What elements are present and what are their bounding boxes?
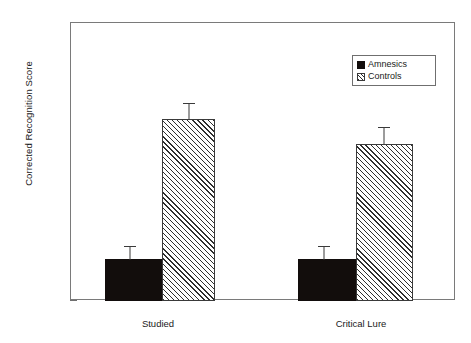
solid-square-icon: [357, 61, 365, 69]
legend: Amnesics Controls: [352, 55, 436, 86]
errorbar-stem: [384, 127, 385, 145]
legend-label-controls: Controls: [368, 72, 402, 81]
x-tick-label-studied: Studied: [118, 318, 198, 329]
errorbar-critical-lure-controls: [378, 127, 390, 145]
bar-studied-controls[interactable]: [162, 119, 215, 301]
y-tick-major-0: [70, 300, 77, 301]
errorbar-stem: [130, 246, 131, 260]
errorbar-studied-amnesics: [124, 246, 136, 260]
errorbar-critical-lure-amnesics: [318, 246, 330, 260]
bar-studied-amnesics[interactable]: [105, 259, 162, 301]
errorbar-stem: [324, 246, 325, 260]
errorbar-studied-controls: [183, 103, 195, 120]
errorbar-stem: [189, 103, 190, 120]
legend-label-amnesics: Amnesics: [368, 60, 407, 69]
legend-item-amnesics[interactable]: Amnesics: [357, 59, 431, 70]
bar-chart-figure: Corrected Recognition Score 1 0.8 0.6 0.…: [0, 0, 471, 343]
hatched-square-icon: [357, 73, 365, 81]
bar-critical-lure-amnesics[interactable]: [298, 259, 356, 301]
bar-critical-lure-controls[interactable]: [356, 144, 413, 301]
legend-item-controls[interactable]: Controls: [357, 71, 431, 82]
y-axis-title: Corrected Recognition Score: [23, 24, 34, 224]
x-tick-label-critical-lure: Critical Lure: [316, 318, 406, 329]
